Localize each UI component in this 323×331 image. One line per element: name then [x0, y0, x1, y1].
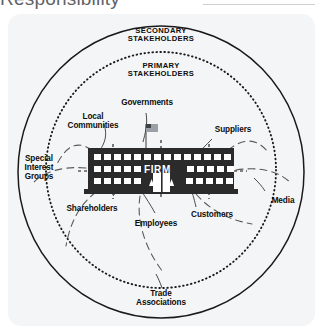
- stakeholder-local-communities: Local Communities: [64, 113, 122, 131]
- ring-label-primary: PRIMARY STAKEHOLDERS: [122, 62, 200, 78]
- stakeholder-shareholders: Shareholders: [61, 205, 123, 214]
- stakeholder-customers: Customers: [186, 211, 238, 220]
- stakeholder-media: Media: [266, 197, 300, 206]
- screenshot-root: Responsibility: [0, 0, 323, 331]
- united-states-flag-icon: [146, 124, 158, 148]
- stakeholder-special-interest-groups: Special Interest Groups: [15, 155, 63, 182]
- ring-label-secondary: SECONDARY STAKEHOLDERS: [120, 27, 202, 43]
- stakeholder-trade-associations: Trade Associations: [126, 290, 196, 308]
- stakeholder-employees: Employees: [128, 220, 184, 229]
- stakeholder-governments: Governments: [116, 99, 178, 108]
- firm-label: FIRM: [144, 164, 171, 175]
- label-leader-lines: [100, 113, 265, 288]
- stakeholder-suppliers: Suppliers: [211, 126, 255, 135]
